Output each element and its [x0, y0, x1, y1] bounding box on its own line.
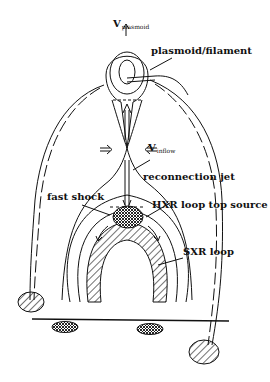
- downward-jet-arrow: [123, 160, 131, 210]
- hxr-footpoint-left: [52, 322, 78, 333]
- hxr-source-label: HXR loop top source: [152, 200, 268, 210]
- fast-shock-label: fast shock: [47, 192, 104, 202]
- plasmoid: [106, 52, 188, 148]
- flare-diagram: [0, 0, 270, 382]
- plasmoid-label: plasmoid/filament: [151, 46, 252, 56]
- right-hatched-footpoint: [189, 340, 219, 364]
- hxr-source: [113, 206, 143, 228]
- inflow-arrow-left: [100, 145, 112, 154]
- reconnection-jet-label: reconnection jet: [143, 172, 235, 182]
- sxr-loop-label: SXR loop: [183, 247, 234, 257]
- v-inflow-label: Vinflow: [148, 143, 175, 153]
- left-hatched-footpoint: [18, 292, 44, 312]
- v-plasmoid-label: Vplasmoid: [113, 19, 149, 29]
- hxr-footpoint-right: [137, 324, 163, 335]
- surface-line: [32, 319, 229, 321]
- upward-jet-arrow: [123, 104, 131, 140]
